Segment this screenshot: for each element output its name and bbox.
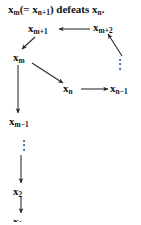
arrow-xm1-to-xm [22, 37, 35, 49]
bottom-clip-edge [0, 222, 141, 225]
arrow-xn-column-to-xm2 [108, 34, 122, 56]
arrow-layer: x_m+1 (leftward) --> x_m (down-left diag… [0, 0, 141, 225]
arrow-xm-to-xn [32, 63, 63, 83]
figure-canvas: xm(= xn+1) defeats xn. xm+1 xm+2 xm xn x… [0, 0, 141, 225]
